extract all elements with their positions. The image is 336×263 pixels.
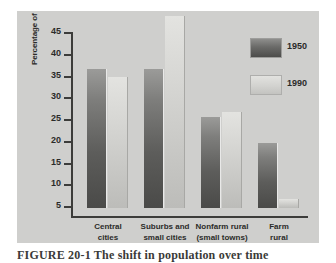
x-label-central-cities-line1: Central [94, 222, 122, 231]
y-tick-label-25: 25 [51, 113, 61, 123]
x-label-suburbs-small-cities-line1: Suburbs and [141, 222, 190, 231]
x-label-farm-rural: Farm rural [241, 222, 317, 243]
y-tick-35: 35 [64, 76, 71, 78]
y-tick-label-15: 15 [51, 157, 61, 167]
y-tick-label-40: 40 [51, 48, 61, 58]
y-tick-40: 40 [64, 54, 71, 56]
x-label-farm-rural-line2: rural [241, 233, 317, 244]
x-label-farm-rural-line1: Farm [269, 222, 289, 231]
x-axis-line [71, 216, 308, 218]
y-tick-label-30: 30 [51, 91, 61, 101]
y-tick-label-35: 35 [51, 70, 61, 80]
bar-1950-farm-rural[interactable] [258, 143, 277, 208]
y-tick-label-20: 20 [51, 135, 61, 145]
y-tick-45: 45 [64, 32, 71, 34]
y-tick-label-10: 10 [51, 178, 61, 188]
bar-1990-suburbs-small-cities[interactable] [165, 16, 184, 208]
chart-panel: Percentage of U.S. population 45 40 35 3… [17, 11, 319, 243]
y-tick-10: 10 [64, 184, 71, 186]
legend-swatch-1990-icon [250, 75, 282, 95]
y-axis-line [71, 32, 73, 218]
legend-label-1990: 1990 [287, 78, 307, 88]
y-tick-label-45: 45 [51, 26, 61, 36]
bar-1990-central-cities[interactable] [108, 77, 127, 208]
bar-1950-suburbs-small-cities[interactable] [144, 69, 163, 208]
legend-label-1950: 1950 [287, 41, 307, 51]
y-tick-15: 15 [64, 163, 71, 165]
y-tick-25: 25 [64, 119, 71, 121]
bar-1950-nonfarm-rural[interactable] [201, 117, 220, 208]
bar-1950-central-cities[interactable] [87, 69, 106, 208]
y-axis-title: Percentage of U.S. population [30, 11, 39, 65]
figure-caption: FIGURE 20-1 The shift in population over… [17, 248, 319, 263]
y-tick-20: 20 [64, 141, 71, 143]
y-tick-5: 5 [64, 206, 71, 208]
y-tick-label-5: 5 [56, 200, 61, 210]
y-tick-30: 30 [64, 97, 71, 99]
figure-root: Percentage of U.S. population 45 40 35 3… [0, 0, 336, 263]
bar-1990-nonfarm-rural[interactable] [222, 112, 241, 208]
legend-swatch-1950-icon [250, 38, 282, 58]
bar-1990-farm-rural[interactable] [279, 199, 298, 208]
